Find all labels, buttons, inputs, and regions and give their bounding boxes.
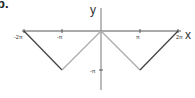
x-tick-label: 2π (176, 34, 183, 40)
x-tick-label: π (136, 34, 140, 40)
graph: b. y x -2π -π π 2π -π (0, 0, 195, 98)
segment-inner-right (101, 31, 140, 70)
segment-outer-right (140, 31, 178, 70)
segment-inner-left (62, 31, 101, 70)
x-tick-label: -2π (14, 34, 23, 40)
y-tick-label: -π (90, 68, 96, 74)
part-label: b. (0, 0, 9, 11)
x-tick-label: -π (57, 34, 63, 40)
x-axis-label: x (185, 28, 191, 42)
plot-area: y x -2π -π π 2π -π (0, 0, 195, 98)
y-axis-label: y (90, 3, 96, 17)
